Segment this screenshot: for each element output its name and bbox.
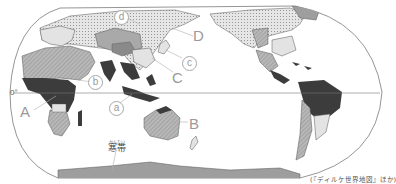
label-C: C bbox=[172, 70, 183, 85]
circled-label-c: c bbox=[182, 56, 197, 71]
southern-africa-temperate bbox=[52, 104, 66, 112]
source-caption: (『ディルケ世界地図』ほか) bbox=[310, 174, 396, 184]
circled-label-b: b bbox=[88, 75, 103, 90]
madagascar bbox=[78, 110, 82, 126]
label-B: B bbox=[189, 116, 199, 131]
label-D: D bbox=[193, 28, 204, 43]
equator-label: 0° bbox=[10, 89, 18, 97]
circled-label-a: a bbox=[109, 101, 124, 116]
circled-label-d: d bbox=[114, 10, 129, 25]
australia-dry bbox=[144, 110, 180, 140]
cold-zone-label: 寒帯 bbox=[108, 144, 126, 153]
label-A: A bbox=[20, 104, 30, 119]
